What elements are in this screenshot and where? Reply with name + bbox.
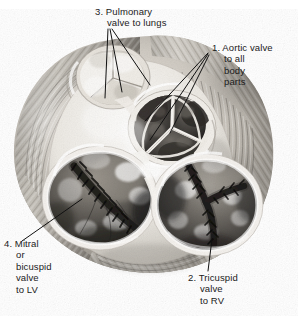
label-tricuspid-line-3: to RV: [188, 295, 238, 306]
heart-valves-figure: 3. Pulmonaryvalve to lungs 1. Aortic val…: [0, 0, 298, 316]
label-mitral-line-1: 4. Mitral: [4, 238, 39, 249]
label-aortic-line-3: body: [212, 65, 273, 76]
label-tricuspid-valve: 2. Tricuspidvalveto RV: [188, 272, 238, 306]
label-aortic-line-4: parts: [212, 76, 273, 87]
label-mitral-valve: 4. Mitralorbicuspidvalveto LV: [4, 238, 52, 295]
label-tricuspid-line-1: 2. Tricuspid: [188, 272, 238, 283]
label-mitral-line-5: to LV: [4, 284, 52, 295]
label-pulmonary-line-1: 3. Pulmonary: [95, 6, 152, 17]
label-aortic-valve: 1. Aortic valveto allbodyparts: [212, 42, 273, 88]
label-pulmonary-valve: 3. Pulmonaryvalve to lungs: [95, 6, 167, 29]
label-tricuspid-line-2: valve: [188, 283, 238, 294]
label-pulmonary-line-2: valve to lungs: [95, 17, 167, 28]
label-mitral-line-4: valve: [4, 272, 52, 283]
label-mitral-line-3: bicuspid: [4, 261, 52, 272]
label-aortic-line-1: 1. Aortic valve: [212, 42, 273, 53]
label-aortic-line-2: to all: [212, 53, 273, 64]
label-mitral-line-2: or: [4, 249, 52, 260]
